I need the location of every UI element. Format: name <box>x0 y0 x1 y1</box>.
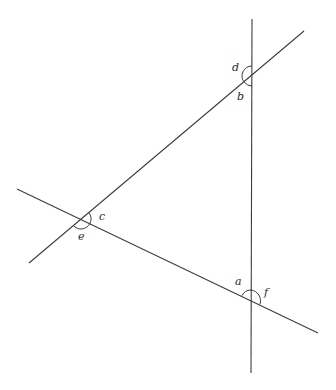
angle-label-e: e <box>78 230 85 243</box>
angle-label-a: a <box>235 275 242 288</box>
vertical-line <box>251 19 252 373</box>
angle-label-f: f <box>263 286 270 299</box>
angle-label-c: c <box>99 210 105 223</box>
angle-c-arc <box>89 213 91 224</box>
angle-d-arc <box>242 66 252 82</box>
geometry-diagram: d b c e a f <box>0 0 336 390</box>
lower-diagonal-line <box>17 189 318 333</box>
angle-label-b: b <box>237 90 244 103</box>
angle-a-arc <box>242 290 251 296</box>
angle-b-arc <box>244 82 252 86</box>
upper-diagonal-line <box>29 31 304 263</box>
angle-label-d: d <box>232 61 239 74</box>
